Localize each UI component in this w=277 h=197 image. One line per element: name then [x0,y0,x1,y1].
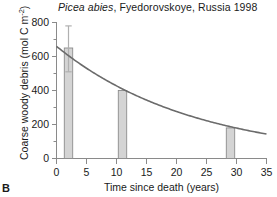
x-tick-label-10: 10 [111,166,123,178]
x-tick-label-30: 30 [231,166,243,178]
x-tick-label-15: 15 [141,166,153,178]
x-tick-label-25: 25 [201,166,213,178]
bar-series [64,48,234,159]
bar [118,91,126,159]
x-axis-tick-labels: 0 5 10 15 20 25 30 35 [54,166,273,178]
y-tick-label-600: 600 [31,50,49,62]
y-axis-major-ticks [52,23,56,159]
x-tick-label-0: 0 [54,166,60,178]
figure-panel-b: Picea abies, Fyedorovskoye, Russia 1998 … [0,0,277,197]
x-axis-ticks [57,159,267,164]
x-tick-label-35: 35 [261,166,273,178]
y-tick-label-400: 400 [31,84,49,96]
y-tick-label-200: 200 [31,118,49,130]
y-axis-tick-labels: 800 600 400 200 0 [31,16,49,164]
decay-curve-line [57,46,267,134]
x-tick-label-20: 20 [171,166,183,178]
plot-area: 800 600 400 200 0 0 5 10 15 20 25 30 35 [0,0,277,197]
y-tick-label-800: 800 [31,16,49,28]
y-tick-label-0: 0 [43,152,49,164]
x-tick-label-5: 5 [84,166,90,178]
bar [226,128,234,159]
